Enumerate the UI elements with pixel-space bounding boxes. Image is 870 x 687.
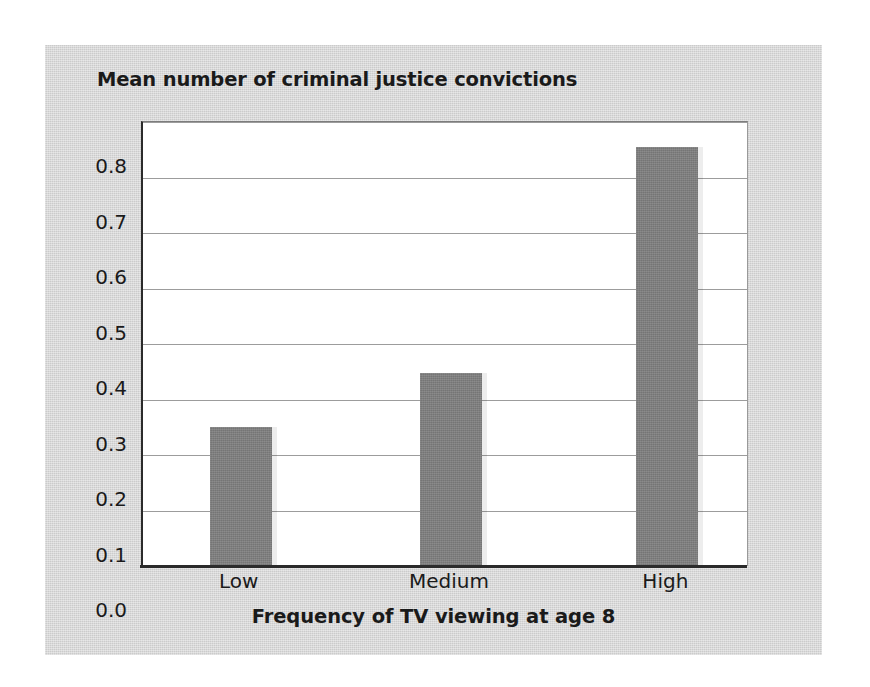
chart-page: Mean number of criminal justice convicti… (0, 0, 870, 687)
bar-low[interactable] (210, 427, 272, 566)
x-tick-label-low: Low (219, 569, 258, 593)
y-tick-label: 0.2 (75, 487, 127, 511)
x-tick-label-medium: Medium (409, 569, 489, 593)
y-tick-label: 0.5 (75, 321, 127, 345)
x-axis-title: Frequency of TV viewing at age 8 (45, 605, 822, 628)
y-axis-tick-labels: 0.00.10.20.30.40.50.60.70.8 (75, 166, 127, 610)
y-tick-label: 0.8 (75, 154, 127, 178)
chart-panel: Mean number of criminal justice convicti… (45, 45, 822, 655)
x-axis-tick-labels: LowMediumHigh (141, 569, 745, 603)
y-tick-label: 0.7 (75, 210, 127, 234)
y-tick-label: 0.1 (75, 543, 127, 567)
y-tick-label: 0.4 (75, 376, 127, 400)
gridline (143, 122, 747, 123)
x-axis-line (140, 565, 747, 568)
bar-medium[interactable] (420, 373, 482, 566)
plot-inner (143, 122, 747, 566)
plot-area (141, 121, 748, 566)
bar-high[interactable] (636, 147, 698, 566)
x-tick-label-high: High (642, 569, 688, 593)
chart-title: Mean number of criminal justice convicti… (97, 68, 577, 91)
y-tick-label: 0.3 (75, 432, 127, 456)
y-tick-label: 0.6 (75, 265, 127, 289)
